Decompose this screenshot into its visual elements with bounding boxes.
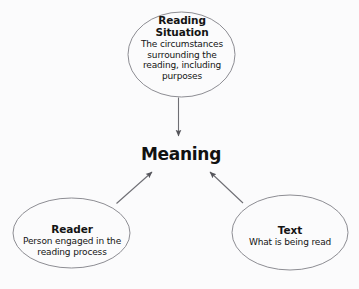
ellipse-reading-situation <box>128 12 235 97</box>
arrow-text-to-meaning <box>210 172 243 203</box>
ellipse-text <box>232 195 348 270</box>
arrow-reader-to-meaning <box>117 172 153 204</box>
diagram-svg <box>0 0 359 289</box>
diagram-canvas: Reading Situation The circumstances surr… <box>0 0 359 289</box>
ellipse-reader <box>13 198 130 268</box>
